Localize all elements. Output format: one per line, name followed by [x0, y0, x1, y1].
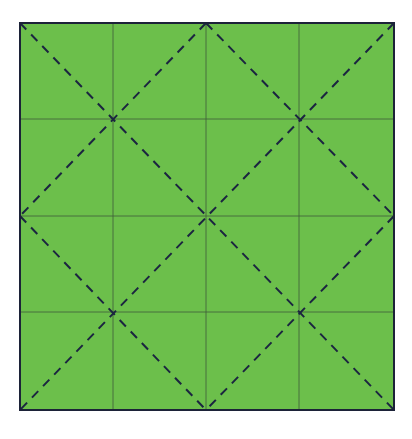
crease-pattern-diagram: [0, 0, 412, 439]
